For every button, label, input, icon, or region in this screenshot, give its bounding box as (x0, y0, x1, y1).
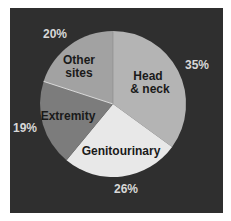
pct-head-neck: 35% (185, 58, 209, 72)
label-head-neck-line2: & neck (130, 82, 170, 96)
label-other-line1: Other (63, 53, 95, 67)
label-genitourinary: Genitourinary (82, 144, 161, 158)
label-other-line2: sites (65, 66, 93, 80)
pct-genitourinary: 26% (114, 182, 138, 196)
pct-other-sites: 20% (43, 27, 67, 41)
pct-extremity: 19% (13, 121, 37, 135)
pie-chart: Head & neck Genitourinary Extremity Othe… (0, 0, 231, 221)
label-extremity: Extremity (41, 109, 96, 123)
label-head-neck-line1: Head (133, 69, 162, 83)
